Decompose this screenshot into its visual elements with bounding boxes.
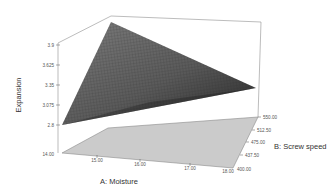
y-tick-label: 475.00 — [251, 140, 265, 145]
surface-plot: 3.9 3.625 3.35 3.075 2.8 Expansion 14.00… — [0, 0, 331, 191]
x-tick-label: 16.00 — [134, 162, 146, 167]
z-tick-label: 3.625 — [43, 63, 55, 68]
y-tick-label: 437.50 — [245, 153, 259, 158]
y-tick-label: 400.00 — [237, 167, 251, 172]
z-tick-label: 3.9 — [48, 43, 55, 48]
y-tick-label: 512.50 — [257, 128, 271, 133]
response-surface — [62, 22, 256, 125]
z-axis-title: Expansion — [14, 77, 23, 112]
z-tick-label: 2.8 — [48, 123, 55, 128]
y-axis-title: B: Screw speed — [274, 142, 327, 151]
z-tick-label: 3.075 — [43, 103, 55, 108]
y-tick-label: 550.00 — [263, 115, 277, 120]
z-tick-label: 3.35 — [45, 83, 54, 88]
x-axis-title: A: Moisture — [100, 177, 138, 186]
x-tick-label: 18.00 — [222, 169, 234, 174]
x-tick-label: 17.00 — [184, 166, 196, 171]
x-tick-label: 15.00 — [91, 158, 103, 163]
x-tick-label: 14.00 — [43, 152, 55, 157]
